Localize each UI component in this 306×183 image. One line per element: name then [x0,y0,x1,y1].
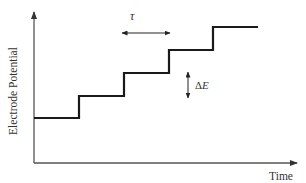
delta-symbol: Δ [195,79,202,91]
step-height-label: ΔE [195,79,209,91]
y-axis-label: Electrode Potential [7,47,19,135]
staircase-diagram: τ ΔE Electrode Potential Time [0,0,306,183]
energy-symbol: E [201,79,209,91]
staircase-waveform [34,27,258,118]
step-duration-label: τ [130,9,135,23]
x-axis-label: Time [269,170,293,182]
